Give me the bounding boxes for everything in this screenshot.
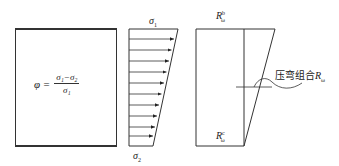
resistance-diagram [196, 29, 302, 146]
sigma1-subscript: 1 [154, 22, 157, 28]
r-compression-superscript: c [222, 130, 225, 136]
combined-callout-label: 压弯组合Rω [275, 71, 325, 83]
sigma2-label: σ2 [133, 151, 141, 163]
stress-arrows [129, 39, 174, 136]
formula-lhs: φ = [34, 78, 50, 90]
r-bending-subscript: ω [221, 17, 225, 23]
r-bending-superscript: b [222, 10, 225, 16]
sigma1-label: σ1 [149, 16, 157, 28]
callout-subscript: ω [321, 77, 325, 83]
formula-fraction: σ₁−σ₂ σ₁ [54, 72, 79, 95]
r-bending-label: Rbω [216, 10, 225, 23]
callout-text: 压弯组合 [275, 70, 315, 81]
formula-numerator: σ₁−σ₂ [54, 72, 79, 84]
eccentricity-formula: φ = σ₁−σ₂ σ₁ [34, 72, 79, 95]
sigma2-subscript: 2 [138, 157, 141, 163]
stress-distribution [129, 29, 178, 146]
r-compression-label: Rcω [216, 130, 225, 143]
r-compression-subscript: ω [221, 137, 225, 143]
formula-denominator: σ₁ [63, 84, 71, 95]
